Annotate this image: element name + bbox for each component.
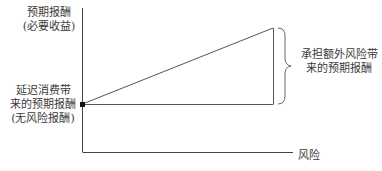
y-axis-label-line2: (必要收益) — [20, 20, 78, 34]
x-axis-label: 风险 — [298, 149, 320, 163]
risk-free-label: 延迟消费带 来的预期报酬 (无风险报酬) — [6, 84, 80, 126]
y-axis-label-line1: 预期报酬 — [20, 6, 78, 20]
risk-return-diagram: 预期报酬 (必要收益) 延迟消费带 来的预期报酬 (无风险报酬) 承担额外风险带… — [0, 0, 382, 171]
risk-free-label-line2: 来的预期报酬 — [6, 98, 80, 112]
risk-free-label-line1: 延迟消费带 — [6, 84, 80, 98]
risk-premium-label-line1: 承担额外风险带 — [296, 48, 382, 62]
risk-premium-label-line2: 来的预期报酬 — [296, 62, 382, 76]
risk-premium-label: 承担额外风险带 来的预期报酬 — [296, 48, 382, 76]
y-axis-label: 预期报酬 (必要收益) — [20, 6, 78, 34]
risk-free-point — [80, 102, 85, 107]
risk-premium-brace — [278, 28, 291, 104]
risk-free-label-line3: (无风险报酬) — [6, 112, 80, 126]
expected-return-line — [83, 28, 274, 104]
